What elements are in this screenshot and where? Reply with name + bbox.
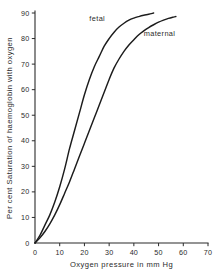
curve-label-maternal: maternal [144,29,176,38]
y-tick-label: 40 [21,136,29,145]
y-tick-label: 70 [21,60,29,69]
curve-annotations: fetalmaternal [89,14,175,38]
chart-canvas: 0102030405060708090 010203040506070 feta… [0,0,217,274]
y-tick-label: 10 [21,213,29,222]
curve-fetal [35,13,154,243]
curve-label-fetal: fetal [89,14,105,23]
x-tick-label: 70 [204,248,212,257]
x-tick-label: 10 [56,248,64,257]
y-tick-label: 30 [21,162,29,171]
x-tick-label: 60 [179,248,187,257]
x-axis-title: Oxygen pressure in mm Hg [70,260,173,269]
data-curves [35,13,176,243]
y-axis-tick-labels: 0102030405060708090 [21,9,29,248]
x-tick-label: 30 [105,248,113,257]
x-tick-label: 50 [154,248,162,257]
oxygen-dissociation-chart: 0102030405060708090 010203040506070 feta… [0,0,217,274]
x-tick-label: 0 [33,248,37,257]
x-axis-tick-labels: 010203040506070 [33,248,212,257]
x-tick-label: 40 [130,248,138,257]
y-tick-label: 0 [25,239,29,248]
y-axis-title: Per cent Saturation of haemoglobin with … [5,37,14,219]
x-axis: 010203040506070 [33,243,212,257]
y-axis: 0102030405060708090 [21,9,35,248]
y-tick-label: 80 [21,34,29,43]
x-tick-label: 20 [80,248,88,257]
y-tick-label: 90 [21,9,29,18]
y-tick-label: 20 [21,187,29,196]
y-tick-label: 50 [21,111,29,120]
curve-maternal [35,17,176,243]
y-tick-label: 60 [21,85,29,94]
